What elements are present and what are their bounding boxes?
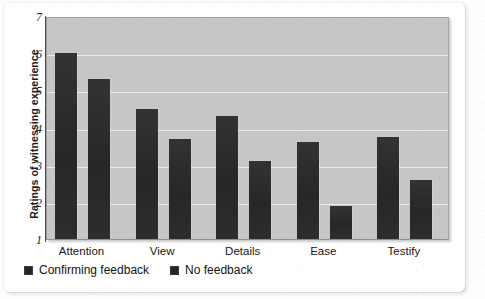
legend-item: No feedback	[170, 263, 252, 277]
filled-square-icon	[170, 266, 179, 275]
x-axis-tick-label: Ease	[310, 245, 336, 257]
x-axis-tick-label: View	[150, 245, 175, 257]
bar	[169, 139, 191, 239]
x-axis-tick-labels: AttentionViewDetailsEaseTestify	[46, 245, 449, 261]
bar	[297, 142, 319, 239]
filled-square-icon	[24, 266, 33, 275]
y-axis-tick-label: 6	[28, 48, 42, 60]
scanned-page-background: Ratings of witnessing experience 1234567…	[0, 0, 485, 299]
bar	[88, 79, 110, 239]
bar	[330, 206, 352, 240]
y-axis-label-container: Ratings of witnessing experience	[20, 0, 21, 299]
legend-item-label: No feedback	[185, 263, 252, 277]
legend-item: Confirming feedback	[24, 263, 149, 277]
bar	[55, 53, 77, 239]
plot-area	[46, 17, 449, 240]
x-axis-tick-label: Attention	[59, 245, 104, 257]
bar	[377, 137, 399, 239]
y-axis-tick-label: 7	[28, 11, 42, 23]
bar	[249, 161, 271, 239]
y-axis-tick-label: 2	[28, 197, 42, 209]
x-axis-tick-label: Testify	[388, 245, 421, 257]
bar	[136, 109, 158, 239]
chart-legend: Confirming feedback No feedback	[24, 263, 252, 277]
y-axis-tick-label: 3	[28, 160, 42, 172]
gridline	[47, 55, 448, 56]
y-axis-tick-label: 5	[28, 85, 42, 97]
bar	[410, 180, 432, 240]
x-axis-tick-label: Details	[225, 245, 260, 257]
bar	[216, 116, 238, 239]
y-axis-tick-label: 4	[28, 123, 42, 135]
y-axis-tick-labels: 1234567	[22, 0, 42, 299]
legend-item-label: Confirming feedback	[39, 263, 149, 277]
y-axis-tick-label: 1	[28, 234, 42, 246]
